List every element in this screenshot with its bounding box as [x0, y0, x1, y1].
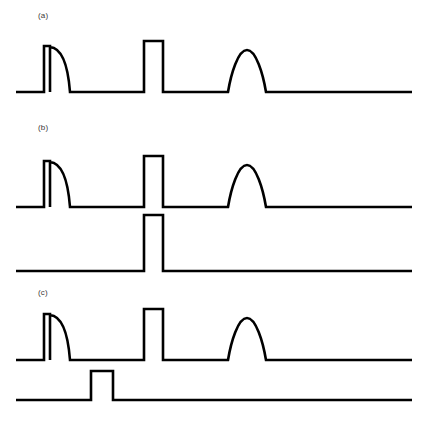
panel-c-group — [16, 309, 412, 400]
panel-b-group — [16, 156, 412, 271]
panel-label-a: (a) — [38, 11, 48, 20]
panel-a-stimulus-trace — [16, 41, 412, 92]
panel-a-group — [16, 41, 412, 92]
panel-b-gate-trace — [16, 215, 412, 271]
panel-c-gate-trace — [16, 371, 412, 400]
pulse-timing-figure: (a) (b) (c) — [0, 0, 428, 435]
waveform-canvas — [0, 0, 428, 435]
panel-label-b: (b) — [38, 123, 48, 132]
panel-b-stimulus-trace — [16, 156, 412, 207]
panel-label-c: (c) — [38, 288, 48, 297]
panel-c-stimulus-trace — [16, 309, 412, 360]
